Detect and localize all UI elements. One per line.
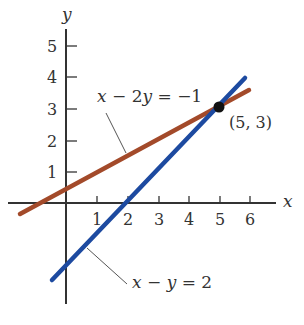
x-tick-label: 2 xyxy=(123,210,133,229)
x-tick-label: 4 xyxy=(184,210,194,229)
x-tick-label: 6 xyxy=(245,210,255,229)
x-tick-label: 3 xyxy=(154,210,164,229)
leader-line-1 xyxy=(106,113,126,153)
y-tick-label: 2 xyxy=(47,132,57,151)
system-of-equations-graph: 1 2 3 4 5 6 1 2 3 4 5 x y x − 2y = −1 x … xyxy=(0,0,304,325)
intersection-point xyxy=(214,102,225,113)
equation-label-line-1: x − 2y = −1 xyxy=(97,86,202,106)
x-axis-label: x xyxy=(283,191,293,211)
x-ticks xyxy=(97,196,250,203)
y-tick-label: 4 xyxy=(47,68,57,87)
y-tick-label: 3 xyxy=(47,100,57,119)
leader-line-2 xyxy=(87,248,127,284)
y-ticks xyxy=(66,46,77,172)
y-tick-label: 5 xyxy=(47,37,57,56)
x-tick-label: 5 xyxy=(215,210,225,229)
intersection-label: (5, 3) xyxy=(229,113,272,132)
y-axis-label: y xyxy=(61,4,72,24)
y-tick-label: 1 xyxy=(47,163,57,182)
equation-label-line-2: x − y = 2 xyxy=(132,272,212,292)
axes: 1 2 3 4 5 6 1 2 3 4 5 x y xyxy=(8,4,293,304)
